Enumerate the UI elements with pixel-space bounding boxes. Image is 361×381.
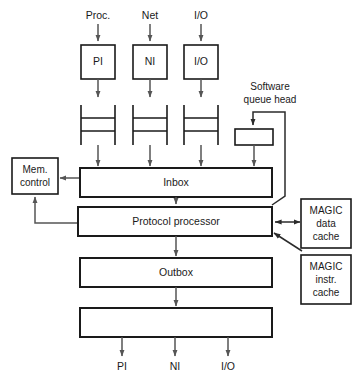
magic-instr-cache-label-line3: cache (313, 287, 340, 298)
diagram-canvas: Proc. Net I/O PI NI I/O (0, 0, 361, 381)
magic-instr-cache-label-line1: MAGIC (310, 261, 343, 272)
top-input-label-proc: Proc. (86, 9, 111, 21)
bottom-output-label-io: I/O (221, 360, 235, 372)
arrow-instr-cache-to-protocol (274, 233, 302, 251)
top-input-label-net: Net (142, 9, 158, 21)
inbox-label: Inbox (163, 176, 189, 188)
mem-control-label-line2: control (20, 177, 50, 188)
interface-box-io-label: I/O (194, 55, 208, 67)
protocol-processor-label: Protocol processor (132, 215, 220, 227)
mem-control-label-line1: Mem. (23, 164, 48, 175)
software-queue-head-label-line2: queue head (244, 94, 297, 105)
queue-ni (133, 105, 167, 145)
magic-instr-cache-label-line2: instr. (315, 274, 336, 285)
software-queue-head-box (235, 129, 273, 145)
output-buffer-box (80, 308, 272, 337)
interface-box-pi-label: PI (93, 55, 103, 67)
magic-data-cache-label-line2: data (316, 218, 336, 229)
interface-box-ni-label: NI (145, 55, 156, 67)
bottom-output-label-ni: NI (170, 360, 181, 372)
magic-data-cache-label-line3: cache (313, 231, 340, 242)
queue-pi (81, 105, 115, 145)
bottom-output-label-pi: PI (117, 360, 127, 372)
software-queue-head-label-line1: Software (250, 81, 290, 92)
top-input-label-io: I/O (194, 9, 208, 21)
magic-data-cache-label-line1: MAGIC (310, 205, 343, 216)
arrow-protocol-to-mem-control (35, 197, 78, 223)
magic-architecture-diagram: Proc. Net I/O PI NI I/O (0, 0, 361, 381)
outbox-label: Outbox (159, 266, 194, 278)
queue-io (184, 105, 218, 145)
